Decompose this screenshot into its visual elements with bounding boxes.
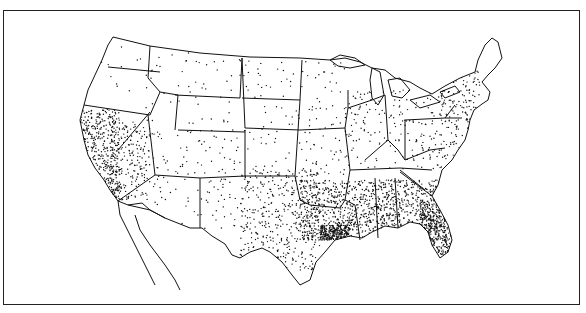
us-dot-density-map [0, 0, 586, 313]
population-dots [80, 46, 481, 270]
